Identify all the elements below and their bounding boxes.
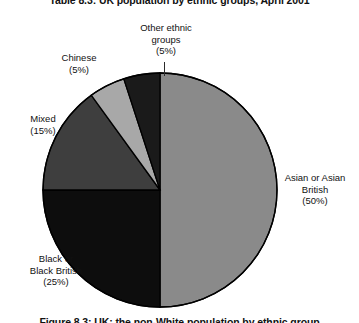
slice-label-other-line1: Other ethnic — [118, 22, 214, 34]
slice-label-other-ethnic-groups: Other ethnic groups (5%) — [118, 22, 214, 57]
slice-label-mixed-line2: (15%) — [12, 125, 74, 137]
figure-page: Table 8.3: UK population by ethnic group… — [0, 0, 359, 323]
figure-caption: Figure 8.3: UK: the non-White population… — [0, 316, 359, 323]
table-title: Table 8.3: UK population by ethnic group… — [0, 0, 359, 6]
slice-label-asian-line2: British — [272, 184, 358, 196]
slice-label-mixed: Mixed (15%) — [12, 113, 74, 136]
slice-label-asian-line3: (50%) — [272, 195, 358, 207]
slice-label-other-line3: (5%) — [118, 45, 214, 57]
leader-line-other — [164, 62, 165, 76]
slice-label-asian-or-asian-british: Asian or Asian British (50%) — [272, 172, 358, 207]
slice-label-chinese: Chinese (5%) — [42, 52, 116, 75]
slice-label-black-line2: Black British — [2, 265, 110, 277]
slice-label-other-line2: groups — [118, 34, 214, 46]
slice-label-black-line3: (25%) — [2, 276, 110, 288]
slice-label-chinese-line2: (5%) — [42, 64, 116, 76]
slice-label-asian-line1: Asian or Asian — [272, 172, 358, 184]
slice-label-black-or-black-british: Black or Black British (25%) — [2, 253, 110, 288]
slice-label-chinese-line1: Chinese — [42, 52, 116, 64]
slice-label-mixed-line1: Mixed — [12, 113, 74, 125]
pie-slice-black-or-black-british[interactable] — [43, 190, 160, 307]
pie-slice-asian-or-asian-british[interactable] — [160, 73, 277, 307]
slice-label-black-line1: Black or — [2, 253, 110, 265]
